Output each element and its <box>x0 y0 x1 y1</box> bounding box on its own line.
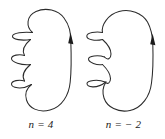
curve-diagram-left <box>2 0 84 118</box>
caption-left: n = 4 <box>0 118 82 130</box>
direction-arrowhead-left <box>68 32 73 44</box>
connector-curve-1-left <box>23 40 30 56</box>
direction-arrowhead-right <box>150 33 155 45</box>
curve-diagram-right <box>80 0 163 118</box>
loop-2-left <box>12 55 31 65</box>
main-curve-right <box>102 11 153 111</box>
loop-1-right <box>87 32 103 40</box>
loop-3-right <box>87 80 106 87</box>
figure-panel: n = 4 n = − 2 <box>0 0 165 139</box>
loop-2-right <box>89 56 105 65</box>
connector-curve-2-right <box>103 65 111 84</box>
main-curve-left <box>26 9 71 110</box>
connector-curve-2-left <box>23 65 30 82</box>
connector-curve-1-right <box>103 40 112 59</box>
caption-right: n = − 2 <box>82 118 165 130</box>
loop-1-left <box>12 32 32 40</box>
